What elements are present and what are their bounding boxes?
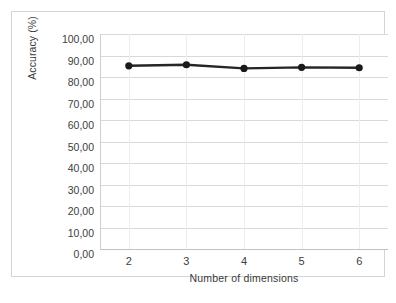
- x-tick-label: 5: [282, 255, 322, 267]
- y-tick-label: 30,00: [36, 185, 94, 195]
- y-tick-label: 70,00: [36, 99, 94, 109]
- figure-canvas: Accuracy (%) 100,0090,0080,0070,0060,005…: [0, 0, 396, 303]
- y-tick-label: 50,00: [36, 142, 94, 152]
- y-tick-label: 90,00: [36, 56, 94, 66]
- x-axis-tick-labels: 23456: [100, 255, 388, 269]
- x-tick-label: 3: [166, 255, 206, 267]
- data-point-marker: [298, 64, 305, 71]
- x-tick-label: 4: [224, 255, 264, 267]
- y-axis-tick-labels: 100,0090,0080,0070,0060,0050,0040,0030,0…: [36, 26, 94, 256]
- x-axis-title: Number of dimensions: [100, 272, 388, 284]
- data-point-marker: [356, 64, 363, 71]
- series-layer: [100, 34, 388, 250]
- y-tick-label: 40,00: [36, 163, 94, 173]
- data-point-marker: [240, 65, 247, 72]
- y-tick-label: 20,00: [36, 206, 94, 216]
- chart-frame: Accuracy (%) 100,0090,0080,0070,0060,005…: [11, 11, 385, 277]
- y-tick-label: 10,00: [36, 228, 94, 238]
- data-point-marker: [125, 62, 132, 69]
- y-tick-label: 0,00: [36, 249, 94, 259]
- y-tick-label: 80,00: [36, 77, 94, 87]
- data-point-marker: [183, 61, 190, 68]
- y-tick-label: 100,00: [36, 34, 94, 44]
- x-tick-label: 2: [109, 255, 149, 267]
- x-tick-label: 6: [339, 255, 379, 267]
- y-tick-label: 60,00: [36, 120, 94, 130]
